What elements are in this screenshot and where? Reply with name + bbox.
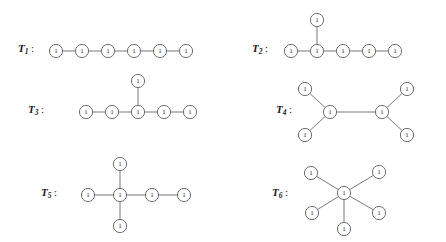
vertex-label: 1	[341, 47, 345, 55]
vertex-label: 1	[303, 131, 307, 139]
tree-t6: 111111T6:	[272, 165, 386, 235]
vertex-label: 1	[342, 189, 346, 197]
vertex-label: 1	[132, 47, 136, 55]
tree-vertex: 1	[127, 44, 140, 57]
tree-vertex: 1	[75, 44, 88, 57]
tree-vertex: 1	[79, 105, 92, 118]
tree-name-subscript: 4	[282, 108, 287, 117]
tree-vertex: 1	[131, 105, 144, 118]
tree-t3: 111111T3:	[28, 74, 197, 118]
vertex-label: 1	[150, 191, 154, 199]
vertex-label: 1	[342, 225, 346, 233]
vertex-label: 1	[182, 191, 186, 199]
tree-t5: 111111T5:	[41, 157, 191, 232]
tree-vertex: 1	[310, 13, 323, 26]
tree-vertex: 1	[153, 44, 166, 57]
tree-vertex: 1	[400, 82, 413, 95]
tree-t2: 111111T2:	[252, 13, 402, 57]
vertex-label: 1	[86, 191, 90, 199]
tree-vertex: 1	[337, 186, 350, 199]
vertex-label: 1	[405, 85, 409, 93]
tree-t4: 111111T4:	[276, 82, 414, 141]
vertex-label: 1	[136, 77, 140, 85]
tree-name-label: T6:	[272, 186, 288, 200]
vertex-group: 111111	[304, 165, 385, 235]
vertex-label: 1	[106, 47, 110, 55]
tree-edge	[310, 93, 325, 107]
tree-t1: 111111T1:	[18, 42, 193, 58]
tree-vertex: 1	[145, 188, 158, 201]
tree-vertex: 1	[362, 44, 375, 57]
tree-vertex: 1	[375, 105, 388, 118]
tree-diagram-figure: 111111T1:111111T2:111111T3:111111T4:1111…	[0, 0, 446, 242]
tree-edge	[350, 196, 374, 209]
tree-name-subscript: 3	[34, 108, 39, 117]
vertex-label: 1	[315, 47, 319, 55]
vertex-label: 1	[136, 108, 140, 116]
tree-vertex: 1	[131, 74, 144, 87]
tree-label-separator: :	[265, 42, 268, 54]
vertex-label: 1	[118, 222, 122, 230]
edge-group	[95, 171, 178, 220]
vertex-label: 1	[309, 169, 313, 177]
vertex-label: 1	[380, 108, 384, 116]
tree-vertex: 1	[323, 105, 336, 118]
tree-vertex: 1	[105, 105, 118, 118]
tree-vertex: 1	[336, 44, 349, 57]
tree-vertex: 1	[310, 44, 323, 57]
vertex-label: 1	[377, 168, 381, 176]
tree-name-label: T1:	[18, 42, 34, 56]
tree-vertex: 1	[157, 105, 170, 118]
tree-name-label: T5:	[41, 186, 57, 200]
vertex-label: 1	[377, 209, 381, 217]
tree-vertex: 1	[284, 44, 297, 57]
tree-name-subscript: 1	[25, 47, 29, 56]
vertex-label: 1	[162, 108, 166, 116]
tree-vertex: 1	[81, 188, 94, 201]
vertex-label: 1	[188, 108, 192, 116]
vertex-label: 1	[84, 108, 88, 116]
vertex-label: 1	[289, 47, 293, 55]
tree-label-separator: :	[31, 42, 34, 54]
tree-vertex: 1	[400, 128, 413, 141]
tree-label-separator: :	[54, 186, 57, 198]
tree-vertex: 1	[298, 128, 311, 141]
vertex-label: 1	[110, 108, 114, 116]
tree-edge	[350, 175, 374, 189]
vertex-label: 1	[80, 47, 84, 55]
tree-vertex: 1	[113, 219, 126, 232]
vertex-label: 1	[310, 209, 314, 217]
vertex-label: 1	[328, 108, 332, 116]
tree-vertex: 1	[113, 188, 126, 201]
tree-edge	[387, 116, 402, 130]
vertex-label: 1	[405, 131, 409, 139]
tree-name-subscript: 5	[48, 191, 52, 200]
tree-label-separator: :	[41, 103, 44, 115]
vertex-label: 1	[118, 191, 122, 199]
tree-vertex: 1	[304, 166, 317, 179]
tree-vertex: 1	[113, 157, 126, 170]
tree-name-label: T2:	[252, 42, 268, 56]
tree-label-separator: :	[285, 186, 288, 198]
vertex-label: 1	[54, 47, 58, 55]
tree-name-label: T4:	[276, 103, 292, 117]
tree-vertex: 1	[177, 188, 190, 201]
tree-name-subscript: 2	[258, 47, 263, 56]
vertex-label: 1	[367, 47, 371, 55]
tree-label-separator: :	[289, 103, 292, 115]
tree-vertex: 1	[179, 44, 192, 57]
tree-edge	[387, 93, 402, 107]
tree-vertex: 1	[372, 206, 385, 219]
vertex-label: 1	[184, 47, 188, 55]
tree-vertex: 1	[388, 44, 401, 57]
tree-name-label: T3:	[28, 103, 44, 117]
tree-vertex: 1	[305, 206, 318, 219]
tree-vertex: 1	[372, 165, 385, 178]
vertex-label: 1	[118, 160, 122, 168]
tree-edge	[317, 176, 339, 189]
tree-edge	[310, 116, 325, 130]
tree-vertex: 1	[337, 222, 350, 235]
tree-vertex: 1	[101, 44, 114, 57]
vertex-label: 1	[393, 47, 397, 55]
tree-edge	[318, 197, 339, 210]
